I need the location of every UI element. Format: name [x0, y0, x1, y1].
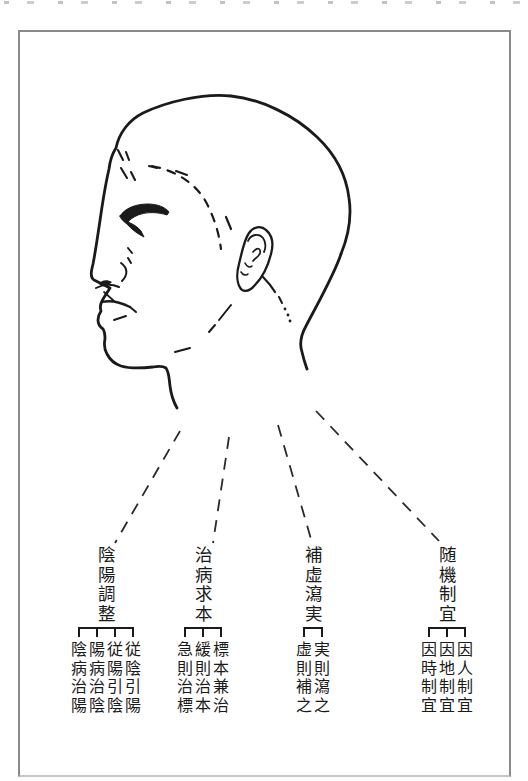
kanji-char: 制	[437, 585, 457, 605]
bracket-tick	[88, 627, 106, 637]
principle-labels: 陰陽調整陰病治陽陽病治陰従陽引陰従陰引陽治病求本急則治標緩則治本標本兼治補虚瀉実…	[0, 0, 528, 781]
kanji-char: 虚	[295, 641, 313, 660]
principle-group-3: 補虚瀉実虚則補之実則瀉之	[295, 546, 331, 715]
sub-principles-row: 虚則補之実則瀉之	[295, 641, 331, 715]
bracket-tick	[124, 627, 142, 637]
kanji-char: 従	[124, 641, 142, 660]
kanji-char: 虚	[303, 566, 323, 586]
kanji-char: 則	[313, 660, 331, 679]
bracket-tick-line	[428, 627, 430, 637]
kanji-char: 宜	[456, 697, 474, 716]
sub-principle-column: 緩則治本	[194, 641, 212, 715]
bracket-tick	[194, 627, 212, 637]
bracket-tick-line	[184, 627, 186, 637]
kanji-char: 因	[456, 641, 474, 660]
sub-principle-column: 陽病治陰	[88, 641, 106, 715]
kanji-char: 従	[106, 641, 124, 660]
sub-principle-column: 因時制宜	[420, 641, 438, 715]
bracket	[295, 627, 331, 637]
bracket	[70, 627, 142, 637]
kanji-char: 陰	[70, 641, 88, 660]
kanji-char: 陽	[106, 660, 124, 679]
kanji-char: 宜	[438, 697, 456, 716]
bracket-tick	[295, 627, 313, 637]
kanji-char: 治	[193, 546, 213, 566]
bracket-tick	[313, 627, 331, 637]
kanji-char: 制	[456, 678, 474, 697]
kanji-char: 陽	[88, 641, 106, 660]
sub-principle-column: 陰病治陽	[70, 641, 88, 715]
kanji-char: 則	[194, 660, 212, 679]
bracket	[176, 627, 230, 637]
sub-principle-column: 実則瀉之	[313, 641, 331, 715]
kanji-char: 之	[295, 697, 313, 716]
kanji-char: 機	[437, 566, 457, 586]
kanji-char: 陽	[70, 697, 88, 716]
kanji-char: 地	[438, 660, 456, 679]
kanji-char: 陰	[96, 546, 116, 566]
principle-group-2: 治病求本急則治標緩則治本標本兼治	[176, 546, 230, 715]
kanji-char: 治	[194, 678, 212, 697]
kanji-char: 治	[88, 678, 106, 697]
kanji-char: 治	[176, 678, 194, 697]
kanji-char: 兼	[212, 678, 230, 697]
kanji-char: 則	[176, 660, 194, 679]
kanji-char: 引	[124, 678, 142, 697]
bracket-tick	[212, 627, 230, 637]
group-header: 補虚瀉実	[303, 546, 323, 624]
bracket-tick-line	[78, 627, 80, 637]
kanji-char: 急	[176, 641, 194, 660]
kanji-char: 本	[194, 697, 212, 716]
kanji-char: 本	[212, 660, 230, 679]
kanji-char: 瀉	[313, 678, 331, 697]
kanji-char: 宜	[420, 697, 438, 716]
bracket-tick-line	[96, 627, 98, 637]
kanji-char: 之	[313, 697, 331, 716]
sub-principle-column: 標本兼治	[212, 641, 230, 715]
kanji-char: 実	[303, 605, 323, 625]
group-header: 陰陽調整	[96, 546, 116, 624]
bracket-tick-line	[321, 627, 323, 637]
kanji-char: 因	[438, 641, 456, 660]
sub-principle-column: 従陰引陽	[124, 641, 142, 715]
kanji-char: 治	[70, 678, 88, 697]
kanji-char: 求	[193, 585, 213, 605]
kanji-char: 整	[96, 605, 116, 625]
bracket-tick	[106, 627, 124, 637]
sub-principle-column: 急則治標	[176, 641, 194, 715]
kanji-char: 病	[88, 660, 106, 679]
bracket-tick-line	[464, 627, 466, 637]
kanji-char: 陰	[88, 697, 106, 716]
bracket-tick-line	[220, 627, 222, 637]
kanji-char: 緩	[194, 641, 212, 660]
kanji-char: 則	[295, 660, 313, 679]
kanji-char: 標	[212, 641, 230, 660]
kanji-char: 陽	[124, 697, 142, 716]
bracket-tick	[438, 627, 456, 637]
kanji-char: 時	[420, 660, 438, 679]
kanji-char: 人	[456, 660, 474, 679]
bracket-tick-line	[202, 627, 204, 637]
kanji-char: 宜	[437, 605, 457, 625]
bracket-tick-line	[132, 627, 134, 637]
sub-principle-column: 虚則補之	[295, 641, 313, 715]
bracket-tick	[420, 627, 438, 637]
group-header: 治病求本	[193, 546, 213, 624]
kanji-char: 随	[437, 546, 457, 566]
bracket-tick	[70, 627, 88, 637]
kanji-char: 補	[303, 546, 323, 566]
kanji-char: 病	[193, 566, 213, 586]
kanji-char: 治	[212, 697, 230, 716]
bracket-tick-line	[114, 627, 116, 637]
kanji-char: 引	[106, 678, 124, 697]
kanji-char: 補	[295, 678, 313, 697]
kanji-char: 調	[96, 585, 116, 605]
bracket-tick-line	[446, 627, 448, 637]
kanji-char: 陽	[96, 566, 116, 586]
sub-principles-row: 因時制宜因地制宜因人制宜	[420, 641, 474, 715]
kanji-char: 標	[176, 697, 194, 716]
sub-principle-column: 因人制宜	[456, 641, 474, 715]
kanji-char: 因	[420, 641, 438, 660]
principle-group-4: 随機制宜因時制宜因地制宜因人制宜	[420, 546, 474, 715]
principle-group-1: 陰陽調整陰病治陽陽病治陰従陽引陰従陰引陽	[70, 546, 142, 715]
